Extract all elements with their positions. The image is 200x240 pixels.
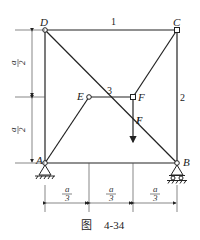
node-label-B: B — [183, 156, 190, 168]
load-label: F — [135, 115, 143, 126]
node-label-C: C — [173, 16, 181, 28]
member-label-3: 3 — [107, 85, 112, 96]
dim-vertical-2: a 2 — [8, 126, 27, 134]
svg-text:2: 2 — [17, 60, 27, 65]
svg-text:3: 3 — [152, 193, 158, 203]
joint-F — [131, 95, 136, 100]
vertical-dimensions — [15, 30, 45, 163]
joint-C — [175, 28, 180, 33]
truss-members — [45, 30, 177, 163]
member-label-2: 2 — [180, 92, 185, 103]
joint-E — [87, 95, 92, 100]
node-label-A: A — [35, 154, 43, 166]
node-label-E: E — [76, 90, 84, 102]
member-AE — [45, 97, 89, 163]
caption-prefix: 图 — [81, 219, 92, 231]
truss-diagram: F D C E F A B 1 2 3 — [0, 0, 200, 240]
dim-horizontal-1: a 3 — [62, 184, 72, 203]
svg-text:2: 2 — [17, 127, 27, 132]
pin-support-A — [35, 165, 55, 179]
dim-horizontal-2: a 3 — [106, 184, 116, 203]
node-label-D: D — [39, 16, 48, 28]
caption-number: 4-34 — [104, 219, 125, 231]
member-CF — [133, 30, 177, 97]
dim-horizontal-3: a 3 — [150, 184, 160, 203]
svg-text:3: 3 — [64, 193, 70, 203]
node-label-F: F — [137, 91, 145, 103]
member-label-1: 1 — [111, 16, 116, 27]
svg-text:3: 3 — [108, 193, 114, 203]
dim-vertical-1: a 2 — [8, 59, 27, 67]
